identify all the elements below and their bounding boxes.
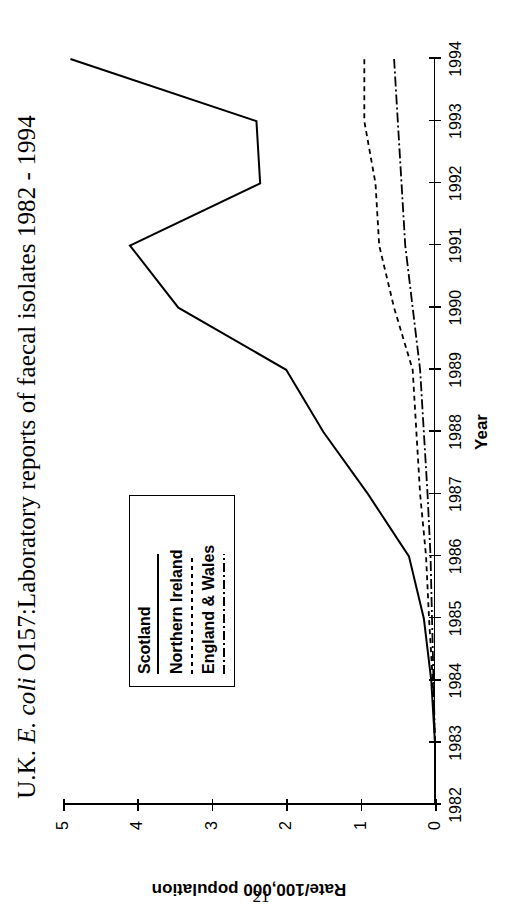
legend-item-1: Northern Ireland [168, 508, 194, 674]
legend-label-2: England & Wales [200, 544, 218, 673]
series-line-scotland [70, 59, 435, 805]
x-tick-label-1994: 1994 [447, 41, 465, 77]
chart-legend: Scotland Northern Ireland England & Wale… [129, 495, 235, 687]
figure-rotation-wrapper: U.K. E. coli O157:Laboratory reports of … [0, 0, 522, 913]
x-tick-label-1987: 1987 [447, 476, 465, 512]
y-tick-label-3: 3 [203, 821, 221, 830]
page-number: 21 [0, 887, 522, 907]
legend-swatch-dashed-icon [190, 554, 194, 674]
legend-swatch-dashdot-icon [222, 554, 226, 674]
data-series-layer [63, 59, 435, 805]
legend-item-2: England & Wales [200, 508, 226, 674]
y-tick-label-5: 5 [54, 821, 72, 830]
chart-title: U.K. E. coli O157:Laboratory reports of … [13, 17, 41, 897]
x-tick-label-1989: 1989 [447, 352, 465, 388]
series-line-england-wales [394, 59, 435, 805]
x-tick-label-1984: 1984 [447, 662, 465, 698]
x-tick-label-1985: 1985 [447, 600, 465, 636]
x-tick-label-1993: 1993 [447, 103, 465, 139]
x-tick-label-1991: 1991 [447, 227, 465, 263]
legend-swatch-solid-icon [157, 554, 161, 674]
x-tick-label-1992: 1992 [447, 165, 465, 201]
plot-area: 1982198319841985198619871988198919901991… [63, 59, 435, 805]
x-tick-label-1986: 1986 [447, 538, 465, 574]
y-tick-label-2: 2 [277, 821, 295, 830]
chart-title-prefix: U.K. [13, 743, 40, 798]
x-tick-label-1983: 1983 [447, 725, 465, 761]
x-tick-label-1988: 1988 [447, 414, 465, 450]
x-tick-label-1990: 1990 [447, 289, 465, 325]
chart-figure: U.K. E. coli O157:Laboratory reports of … [11, 17, 511, 897]
x-axis-title: Year [472, 59, 492, 805]
chart-title-italic: E. coli [13, 677, 40, 743]
y-tick-label-1: 1 [352, 821, 370, 830]
y-tick-label-0: 0 [426, 821, 444, 830]
legend-label-0: Scotland [136, 606, 154, 674]
y-tick-label-4: 4 [128, 821, 146, 830]
legend-item-0: Scotland [136, 508, 162, 674]
chart-title-suffix: O157:Laboratory reports of faecal isolat… [13, 115, 40, 677]
x-tick-label-1982: 1982 [447, 787, 465, 823]
legend-label-1: Northern Ireland [168, 549, 186, 673]
